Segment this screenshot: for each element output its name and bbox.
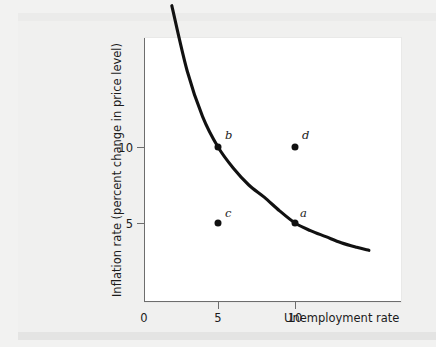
x-axis-tick-5 [218,302,219,309]
x-axis-origin-label: 0 [129,311,159,325]
x-axis-tick-label-5: 5 [203,311,233,325]
y-axis-tick-10 [137,147,144,148]
data-point-label-b: b [225,128,232,142]
data-point-a [292,220,299,227]
figure-mat-band-top [18,13,436,21]
x-axis-title: Unemployment rate [284,311,399,325]
y-axis-tick-5 [137,223,144,224]
x-axis-tick-10 [295,302,296,309]
x-axis-line [144,301,401,302]
y-axis-line [144,38,145,302]
phillips-curve-figure: 0 5 10 10 5 Unemployment rate Inflation … [0,0,436,347]
y-axis-title: Inflation rate (percent change in price … [110,38,124,302]
data-point-d [292,144,299,151]
data-point-label-c: c [225,206,231,220]
figure-mat-band-bottom [18,332,436,340]
data-point-c [215,220,222,227]
data-point-label-a: a [300,206,307,220]
data-point-b [215,144,222,151]
plot-panel [145,38,401,302]
data-point-label-d: d [302,128,309,142]
